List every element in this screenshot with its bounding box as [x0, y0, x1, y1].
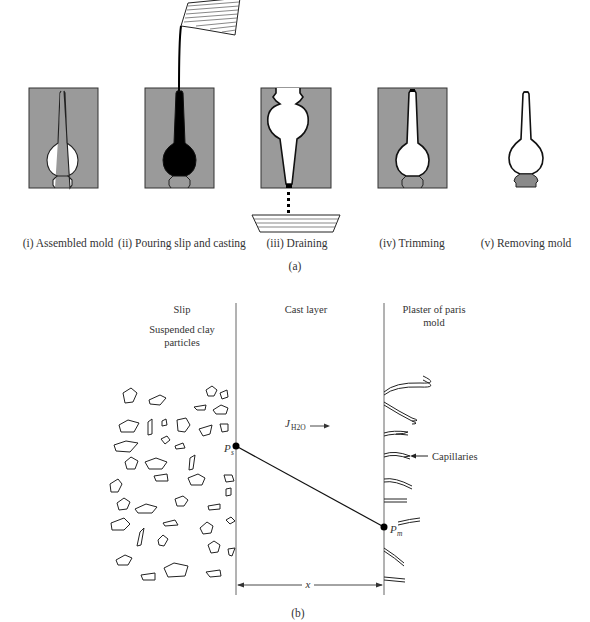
pm-point [381, 524, 388, 531]
cast-part [509, 92, 543, 187]
mold-step-4 [378, 88, 447, 188]
pm-label: P m [389, 523, 403, 538]
slip-label: Slip [174, 304, 191, 315]
mold-step-1 [29, 88, 98, 188]
svg-text:x: x [305, 578, 311, 590]
cast-layer-label: Cast layer [285, 304, 328, 315]
clay-particles [110, 386, 235, 580]
step-label-4: (iv) Trimming [379, 237, 445, 250]
thickness-dimension: x [237, 578, 383, 590]
step-label-3: (iii) Draining [267, 237, 328, 250]
mold-label-1: Plaster of paris [403, 304, 466, 315]
svg-text:H2O: H2O [291, 423, 306, 432]
tray-icon [252, 215, 340, 232]
pitcher-icon [179, 0, 240, 91]
slip-sub2: particles [164, 337, 200, 348]
capillaries-label: Capillaries [432, 451, 478, 462]
caption-b: (b) [291, 607, 305, 620]
step-label-2: (ii) Pouring slip and casting [118, 237, 246, 250]
caption-a: (a) [289, 260, 302, 273]
step-label-1: (i) Assembled mold [23, 237, 114, 250]
capillaries [384, 376, 431, 582]
mold-label-2: mold [423, 317, 445, 328]
svg-text:P: P [223, 442, 231, 454]
slip-sub1: Suspended clay [149, 324, 215, 335]
pressure-gradient-line [236, 446, 384, 527]
svg-text:P: P [389, 523, 397, 535]
svg-text:m: m [397, 529, 403, 538]
slip-casting-figure: (i) Assembled mold (ii) Pouring slip and… [0, 0, 590, 622]
svg-text:s: s [231, 448, 234, 457]
water-flux-label: J H2O [285, 417, 330, 432]
ps-label: P s [223, 442, 234, 457]
mold-step-3 [252, 88, 340, 232]
step-label-5: (v) Removing mold [481, 237, 572, 250]
mold-step-2 [145, 0, 240, 188]
